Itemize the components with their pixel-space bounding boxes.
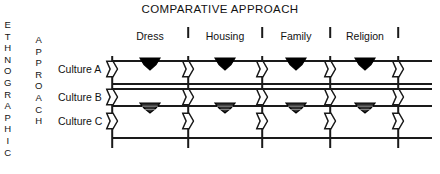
axis-label-ethnographic-char: C xyxy=(4,147,11,159)
axis-label-ethnographic-char: G xyxy=(4,77,12,89)
open-chevron-marker xyxy=(324,111,337,131)
open-chevron-marker xyxy=(182,111,195,131)
column-divider-tick xyxy=(397,27,399,38)
axis-label-approach-char: A xyxy=(36,92,43,104)
open-chevron-marker xyxy=(392,111,405,131)
column-divider-tick xyxy=(187,27,189,38)
row-label-culture-b: Culture B xyxy=(58,91,102,103)
grid-horizontal-line xyxy=(112,137,432,139)
axis-label-approach-char: A xyxy=(36,34,43,46)
column-header-religion: Religion xyxy=(346,30,384,42)
grid-horizontal-line xyxy=(112,88,432,90)
open-chevron-marker xyxy=(256,59,269,79)
axis-label-approach-char: H xyxy=(35,115,42,127)
comparative-approach-diagram: COMPARATIVE APPROACH ETHNOGRAPHIC APPROA… xyxy=(0,0,440,174)
axis-label-ethnographic-char: N xyxy=(4,54,11,66)
axis-label-ethnographic-char: R xyxy=(4,89,11,101)
axis-label-ethnographic-char: O xyxy=(4,65,12,77)
open-chevron-marker xyxy=(392,87,405,107)
axis-label-ethnographic-char: A xyxy=(5,100,12,112)
axis-label-approach-char: C xyxy=(35,104,42,116)
shaded-chevron-marker xyxy=(214,102,236,114)
shaded-chevron-marker xyxy=(139,102,161,114)
column-header-family: Family xyxy=(281,30,312,42)
open-chevron-marker xyxy=(256,111,269,131)
open-chevron-marker xyxy=(106,111,119,131)
axis-label-approach-char: O xyxy=(35,80,43,92)
open-chevron-marker xyxy=(106,87,119,107)
filled-chevron-marker xyxy=(214,57,236,71)
axis-label-approach: APPROACH xyxy=(35,34,43,127)
row-label-culture-a: Culture A xyxy=(58,63,101,75)
column-header-housing: Housing xyxy=(206,30,245,42)
axis-label-approach-char: P xyxy=(36,57,43,69)
axis-label-approach-char: R xyxy=(35,69,42,81)
grid-horizontal-line xyxy=(112,83,432,85)
axis-label-ethnographic-char: I xyxy=(6,135,9,147)
column-header-dress: Dress xyxy=(136,30,163,42)
shaded-chevron-marker xyxy=(285,102,307,114)
page-title: COMPARATIVE APPROACH xyxy=(0,3,440,15)
column-divider-tick xyxy=(329,27,331,38)
shaded-chevron-marker xyxy=(354,102,376,114)
open-chevron-marker xyxy=(324,87,337,107)
row-label-culture-c: Culture C xyxy=(58,115,102,127)
axis-label-ethnographic-char: H xyxy=(4,123,11,135)
filled-chevron-marker xyxy=(139,57,161,71)
filled-chevron-marker xyxy=(285,57,307,71)
open-chevron-marker xyxy=(182,59,195,79)
axis-label-approach-char: P xyxy=(36,46,43,58)
open-chevron-marker xyxy=(392,59,405,79)
open-chevron-marker xyxy=(256,87,269,107)
axis-label-ethnographic-char: H xyxy=(4,42,11,54)
column-divider-tick xyxy=(261,27,263,38)
axis-label-ethnographic: ETHNOGRAPHIC xyxy=(4,19,12,158)
axis-label-ethnographic-char: T xyxy=(5,31,11,43)
filled-chevron-marker xyxy=(354,57,376,71)
axis-label-ethnographic-char: E xyxy=(5,19,12,31)
open-chevron-marker xyxy=(106,59,119,79)
axis-label-ethnographic-char: P xyxy=(5,112,12,124)
open-chevron-marker xyxy=(324,59,337,79)
open-chevron-marker xyxy=(182,87,195,107)
